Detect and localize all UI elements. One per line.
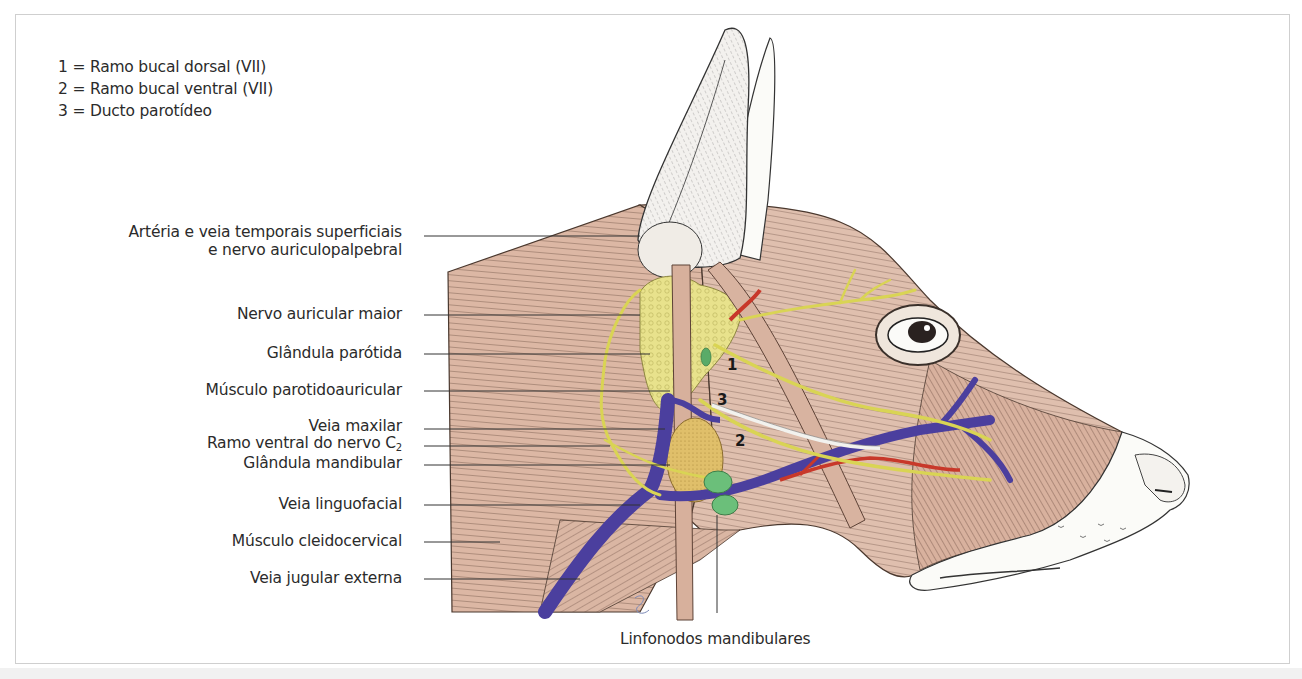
label-arteria-veia-temporais: Artéria e veia temporais superficiais e … — [128, 223, 402, 259]
label-musculo-parotidoauricular: Músculo parotidoauricular — [206, 381, 402, 399]
label-c2-text: Ramo ventral do nervo C — [207, 434, 396, 452]
label-line-1: Artéria e veia temporais superficiais — [128, 223, 402, 241]
label-ramo-ventral-c2: Ramo ventral do nervo C2 — [207, 434, 402, 452]
callout-labels: Artéria e veia temporais superficiais e … — [0, 0, 1302, 679]
label-glandula-mandibular: Glândula mandibular — [243, 454, 402, 472]
label-veia-linguofacial: Veia linguofacial — [279, 495, 402, 513]
label-c2-subscript: 2 — [396, 442, 402, 453]
label-line-2: e nervo auriculopalpebral — [128, 241, 402, 259]
label-veia-jugular-externa: Veia jugular externa — [250, 569, 402, 587]
label-musculo-cleidocervical: Músculo cleidocervical — [232, 532, 402, 550]
label-nervo-auricular-maior: Nervo auricular maior — [237, 305, 402, 323]
label-veia-maxilar: Veia maxilar — [308, 417, 402, 435]
label-linfonodos-mandibulares: Linfonodos mandibulares — [620, 630, 810, 648]
label-glandula-parotida: Glândula parótida — [267, 344, 402, 362]
